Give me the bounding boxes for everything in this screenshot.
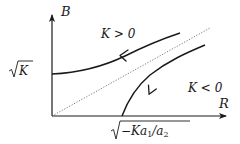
svg-text:−Ka1/a2: −Ka1/a2 [121,124,169,139]
region-label-k-negative: K < 0 [187,81,223,95]
x-axis-label: R [218,96,229,111]
y-tick-sqrt-k: K [9,61,33,78]
lower-curve-arrow-icon [148,84,157,94]
phase-diagram: B R K −Ka1/a2 K > 0 K < 0 [0,0,240,144]
x-tick-sqrt-neg-k-a1-a2: −Ka1/a2 [111,121,190,139]
svg-text:K: K [18,64,29,78]
y-axis-label: B [60,4,71,19]
region-label-k-positive: K > 0 [100,27,136,41]
